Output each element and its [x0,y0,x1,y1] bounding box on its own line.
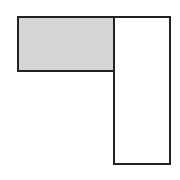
shaded-rectangle [17,16,115,72]
tall-rectangle [113,16,171,165]
